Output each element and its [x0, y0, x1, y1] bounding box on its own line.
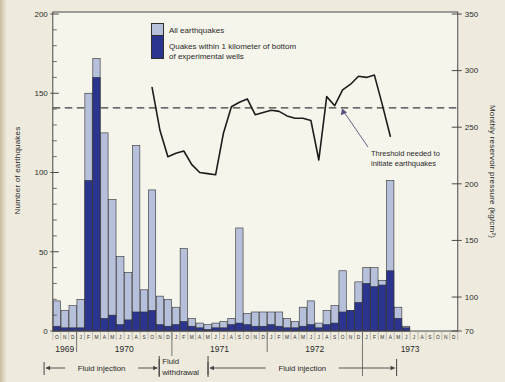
right-axis-tick-label: 150	[465, 236, 479, 245]
bar-all-earthquakes	[180, 249, 187, 331]
bar-near-well-quakes	[355, 302, 362, 331]
left-axis-tick-label: 100	[34, 168, 48, 177]
month-letter: O	[245, 335, 249, 340]
month-letter: A	[198, 335, 202, 340]
month-letter: J	[222, 335, 225, 340]
bar-all-earthquakes	[77, 299, 84, 331]
right-axis-title: Monthly reservoir pressure (kg/cm²)	[488, 62, 497, 282]
month-letter: A	[230, 335, 234, 340]
month-letter: N	[63, 335, 67, 340]
month-letter: D	[452, 335, 456, 340]
bar-near-well-quakes	[307, 325, 314, 331]
month-letter: F	[278, 335, 281, 340]
left-axis-title: Number of earthquakes	[13, 61, 22, 281]
bar-near-well-quakes	[85, 180, 92, 331]
month-letter: A	[420, 335, 424, 340]
bar-near-well-quakes	[275, 326, 282, 331]
pressure-curve	[152, 75, 390, 175]
phase-label: withdrawal	[161, 368, 199, 377]
right-axis-tick-label: 350	[465, 10, 479, 19]
month-letter: J	[214, 335, 217, 340]
month-letter: D	[71, 335, 75, 340]
threshold-pointer-line	[343, 111, 368, 148]
month-letter: J	[79, 335, 82, 340]
phase-label: Fluid	[162, 357, 179, 366]
right-axis-tick-label: 200	[465, 180, 479, 189]
bar-all-earthquakes	[148, 190, 155, 331]
month-letter: J	[405, 335, 408, 340]
month-letter: S	[428, 335, 431, 340]
month-letter: A	[135, 335, 139, 340]
threshold-annotation-line1: Threshold needed to	[371, 149, 440, 158]
bar-near-well-quakes	[347, 310, 354, 331]
right-axis-tick-label: 300	[465, 66, 479, 75]
bar-near-well-quakes	[172, 325, 179, 331]
month-letter: F	[87, 335, 90, 340]
bar-near-well-quakes	[363, 283, 370, 331]
month-letter: O	[150, 335, 154, 340]
month-letter: J	[310, 335, 313, 340]
bar-near-well-quakes	[93, 77, 100, 331]
bar-near-well-quakes	[387, 271, 394, 331]
month-letter: A	[103, 335, 107, 340]
bar-near-well-quakes	[244, 325, 251, 331]
bar-near-well-quakes	[299, 326, 306, 331]
month-letter: O	[55, 335, 59, 340]
month-letter: M	[190, 335, 194, 340]
bar-near-well-quakes	[140, 312, 147, 331]
month-letter: J	[413, 335, 416, 340]
legend-label-near-well-quakes-line1: Quakes within 1 kilometer of bottom	[169, 42, 296, 52]
legend-swatch-all-earthquakes	[151, 23, 164, 36]
month-letter: J	[365, 335, 368, 340]
bar-all-earthquakes	[236, 228, 243, 331]
bar-near-well-quakes	[371, 287, 378, 331]
bar-near-well-quakes	[133, 312, 140, 331]
month-letter: M	[94, 335, 98, 340]
month-letter: A	[389, 335, 393, 340]
month-letter: N	[254, 335, 258, 340]
month-letter: F	[182, 335, 185, 340]
month-letter: O	[341, 335, 345, 340]
month-letter: S	[238, 335, 241, 340]
month-letter: N	[158, 335, 162, 340]
left-axis-tick-label: 150	[34, 89, 48, 98]
month-letter: M	[380, 335, 384, 340]
month-letter: M	[396, 335, 400, 340]
month-letter: M	[285, 335, 289, 340]
bar-all-earthquakes	[109, 199, 116, 331]
phase-label: Fluid injection	[278, 364, 326, 373]
month-letter: A	[325, 335, 329, 340]
year-label: 1973	[401, 344, 420, 354]
month-letter: J	[175, 335, 178, 340]
month-letter: D	[357, 335, 361, 340]
bar-near-well-quakes	[109, 315, 116, 331]
year-label: 1971	[210, 344, 229, 354]
bar-all-earthquakes	[133, 146, 140, 331]
month-letter: M	[110, 335, 114, 340]
bar-near-well-quakes	[164, 326, 171, 331]
year-label: 1970	[115, 344, 134, 354]
bar-all-earthquakes	[69, 306, 76, 331]
phase-arrowhead	[391, 366, 396, 371]
right-axis-tick-label: 70	[465, 327, 474, 336]
month-letter: A	[293, 335, 297, 340]
bar-near-well-quakes	[323, 325, 330, 331]
month-letter: J	[127, 335, 130, 340]
chart-canvas: 20015010050035030025020015010070ONDJFMAM…	[0, 0, 505, 382]
right-axis-tick-label: 100	[465, 293, 479, 302]
year-label: 1972	[305, 344, 324, 354]
month-letter: J	[119, 335, 122, 340]
bar-near-well-quakes	[267, 325, 274, 331]
month-letter: N	[444, 335, 448, 340]
legend-label-near-well-quakes-line2: of experimental wells	[169, 52, 244, 62]
month-letter: M	[206, 335, 210, 340]
bar-near-well-quakes	[252, 326, 259, 331]
bar-near-well-quakes	[395, 318, 402, 331]
month-letter: J	[270, 335, 273, 340]
legend-swatch-near-well-quakes	[151, 36, 164, 59]
phase-arrowhead	[210, 366, 215, 371]
month-letter: D	[166, 335, 170, 340]
left-axis-tick-label: 0	[43, 327, 48, 336]
phase-label: Fluid injection	[78, 364, 126, 373]
month-letter: N	[349, 335, 353, 340]
